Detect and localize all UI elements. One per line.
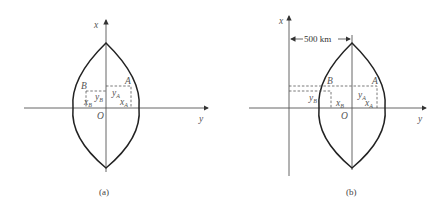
panel-b: x y O 500 km B A yA xA yB xB (b) — [249, 16, 426, 197]
panel-a: x y O A B yA xA yB xB (a) — [24, 20, 208, 197]
origin-label: O — [97, 111, 104, 121]
caption-a: (a) — [99, 187, 109, 197]
yb-label: yB — [308, 93, 317, 104]
distance-label: 500 km — [304, 34, 331, 44]
point-b-label: B — [327, 76, 333, 86]
xb-label: xB — [83, 97, 92, 108]
xa-label: xA — [119, 97, 128, 108]
xa-label: xA — [364, 98, 373, 109]
point-a-label: A — [124, 76, 131, 86]
origin-label: O — [341, 111, 348, 121]
point-a-label: A — [371, 76, 378, 86]
ya-label: yA — [111, 88, 120, 99]
x-axis-label: x — [278, 16, 284, 26]
y-axis-label: y — [198, 114, 204, 124]
figure: x y O A B yA xA yB xB (a) x y O 500 km B — [0, 0, 448, 213]
x-axis-label: x — [93, 20, 99, 30]
xb-label: xB — [335, 98, 344, 109]
y-axis-label: y — [417, 114, 423, 124]
yb-label: yB — [94, 92, 103, 103]
caption-b: (b) — [346, 187, 357, 197]
point-b-label: B — [81, 81, 87, 91]
